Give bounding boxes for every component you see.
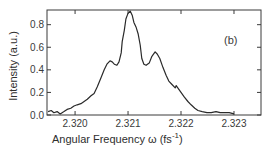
y-tick-label: 0.2 [30, 87, 44, 98]
y-tick-label: 0.4 [30, 64, 44, 75]
y-tick-label: 0.6 [30, 42, 44, 53]
spectrum-chart: 2.3202.3212.3222.323 0.00.20.40.60.8 (b)… [0, 0, 272, 157]
panel-label: (b) [224, 34, 237, 46]
y-tick-label: 0.0 [30, 110, 44, 121]
x-tick-label: 2.321 [116, 118, 141, 129]
y-axis-label: Intensity (a.u.) [7, 31, 19, 101]
spectrum-line [48, 11, 234, 114]
x-tick-label: 2.323 [221, 118, 246, 129]
plot-frame [47, 10, 261, 115]
x-axis-label: Angular Frequency ω (fs-1) [52, 131, 183, 145]
x-tick-label: 2.322 [168, 118, 193, 129]
x-tick-label: 2.320 [63, 118, 88, 129]
x-axis-ticks: 2.3202.3212.3222.323 [63, 10, 247, 129]
y-tick-label: 0.8 [30, 19, 44, 30]
